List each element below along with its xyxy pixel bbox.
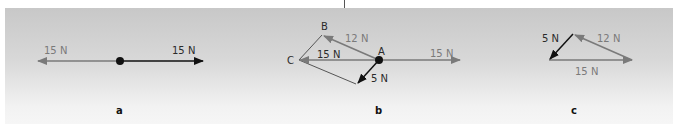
force-15-left-label: 15 N — [317, 49, 340, 60]
point-a-label: A — [378, 46, 385, 57]
caption-b: b — [375, 105, 382, 116]
panel-c: 5 N 12 N 15 N c — [542, 33, 632, 116]
panel-b: B C A 12 N 15 N 15 N 5 N b — [287, 21, 460, 116]
edge-c-bottom — [299, 60, 356, 84]
caption-c: c — [571, 105, 577, 116]
object-dot — [116, 57, 124, 65]
panel-a: 15 N 15 N a — [38, 45, 203, 116]
force-5-label: 5 N — [542, 33, 559, 44]
force-12-label: 12 N — [597, 33, 620, 44]
point-b-label: B — [321, 21, 328, 32]
force-diagram: 15 N 15 N a B C A 12 N 15 N 15 N 5 N b 5 — [0, 0, 683, 129]
force-15-right-label: 15 N — [430, 48, 453, 59]
force-5-label: 5 N — [371, 73, 388, 84]
point-a-dot — [375, 56, 383, 64]
point-c-label: C — [287, 55, 294, 66]
force-12-label: 12 N — [345, 33, 368, 44]
caption-a: a — [116, 105, 123, 116]
right-force-label: 15 N — [172, 45, 195, 56]
left-force-label: 15 N — [44, 45, 67, 56]
force-15-label: 15 N — [575, 66, 598, 77]
